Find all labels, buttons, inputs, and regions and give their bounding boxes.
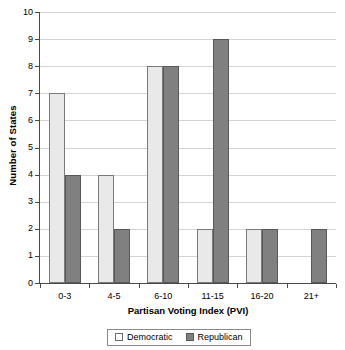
y-tick-label: 5 xyxy=(9,143,33,152)
x-tick-mark xyxy=(287,284,288,288)
y-tick-mark xyxy=(35,283,39,284)
chart-legend: DemocraticRepublican xyxy=(107,329,251,346)
grid-line xyxy=(40,66,336,67)
y-tick-label: 7 xyxy=(9,89,33,98)
bar-1115-democratic xyxy=(197,229,213,283)
bar-1620-democratic xyxy=(246,229,262,283)
x-tick-mark xyxy=(139,284,140,288)
x-tick-mark xyxy=(237,284,238,288)
grid-line xyxy=(40,12,336,13)
y-tick-label: 10 xyxy=(9,8,33,17)
x-tick-mark xyxy=(336,284,337,288)
legend-label: Republican xyxy=(198,332,243,342)
bar-21-republican xyxy=(311,229,327,283)
legend-entry-republican[interactable]: Republican xyxy=(186,332,243,342)
x-axis-title: Partisan Voting Index (PVI) xyxy=(40,305,336,316)
y-tick-label: 1 xyxy=(9,251,33,260)
y-tick-label: 4 xyxy=(9,170,33,179)
bar-45-democratic xyxy=(98,175,114,283)
legend-swatch-icon xyxy=(186,333,194,341)
y-tick-mark xyxy=(35,66,39,67)
grid-line xyxy=(40,229,336,230)
bar-1620-republican xyxy=(262,229,278,283)
y-tick-mark xyxy=(35,229,39,230)
bar-chart: Number of States 109876543210 0-34-56-10… xyxy=(0,0,345,350)
bar-1115-republican xyxy=(213,39,229,283)
y-tick-label: 3 xyxy=(9,197,33,206)
legend-entry-democratic[interactable]: Democratic xyxy=(115,332,173,342)
plot-area xyxy=(40,12,336,283)
bar-03-republican xyxy=(65,175,81,283)
y-tick-label: 6 xyxy=(9,116,33,125)
grid-line xyxy=(40,202,336,203)
y-tick-label: 0 xyxy=(9,279,33,288)
legend-label: Democratic xyxy=(127,332,173,342)
y-tick-mark xyxy=(35,256,39,257)
bar-03-democratic xyxy=(49,93,65,283)
y-tick-mark xyxy=(35,120,39,121)
y-tick-mark xyxy=(35,39,39,40)
grid-line xyxy=(40,93,336,94)
x-tick-mark xyxy=(40,284,41,288)
grid-line xyxy=(40,256,336,257)
grid-line xyxy=(40,175,336,176)
y-tick-mark xyxy=(35,175,39,176)
x-tick-mark xyxy=(89,284,90,288)
y-tick-mark xyxy=(35,12,39,13)
x-tick-label: 21+ xyxy=(281,291,341,301)
grid-line xyxy=(40,39,336,40)
y-tick-mark xyxy=(35,202,39,203)
grid-line xyxy=(40,120,336,121)
bar-610-republican xyxy=(163,66,179,283)
y-tick-mark xyxy=(35,148,39,149)
grid-line xyxy=(40,148,336,149)
bar-45-republican xyxy=(114,229,130,283)
y-tick-label: 9 xyxy=(9,35,33,44)
y-tick-mark xyxy=(35,93,39,94)
legend-swatch-icon xyxy=(115,333,123,341)
y-tick-label: 2 xyxy=(9,224,33,233)
y-tick-label: 8 xyxy=(9,62,33,71)
x-tick-mark xyxy=(188,284,189,288)
bar-610-democratic xyxy=(147,66,163,283)
